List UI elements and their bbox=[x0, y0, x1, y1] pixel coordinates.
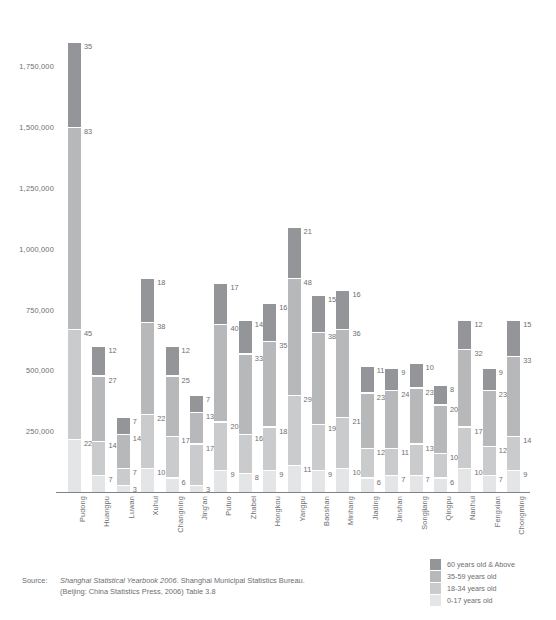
bar-segment-value: 27 bbox=[108, 377, 116, 385]
legend-item[interactable]: 35-59 years old bbox=[430, 570, 554, 582]
bar-segment[interactable]: 17 bbox=[214, 284, 227, 324]
bar-segment[interactable]: 40 bbox=[214, 325, 227, 421]
bar-segment-value: 19 bbox=[328, 425, 336, 433]
bar-segment[interactable]: 22 bbox=[68, 440, 81, 492]
legend-item[interactable]: 60 years old & Above bbox=[430, 558, 554, 570]
bar-segment[interactable]: 12 bbox=[361, 449, 374, 477]
bar-segment[interactable]: 24 bbox=[385, 391, 398, 448]
source-line-1: Shanghai Statistical Yearbook 2006. Shan… bbox=[60, 575, 442, 586]
bar-segment[interactable]: 83 bbox=[68, 128, 81, 329]
bar-segment[interactable]: 12 bbox=[483, 447, 496, 475]
bar-segment-value: 16 bbox=[255, 435, 263, 443]
bar-segment[interactable]: 9 bbox=[263, 471, 276, 492]
bar-segment[interactable]: 14 bbox=[507, 437, 520, 470]
bar-segment-value: 24 bbox=[401, 391, 409, 399]
bar-segment[interactable]: 12 bbox=[92, 347, 105, 375]
bar-segment[interactable]: 7 bbox=[483, 476, 496, 492]
bar-segment[interactable]: 20 bbox=[434, 406, 447, 453]
x-axis-label: Baoshan bbox=[322, 496, 331, 526]
bar-segment[interactable]: 8 bbox=[434, 386, 447, 404]
bar-segment[interactable]: 14 bbox=[239, 321, 252, 354]
bar-segment[interactable]: 8 bbox=[239, 474, 252, 492]
x-axis-label: Nanhui bbox=[468, 496, 477, 520]
bar-segment[interactable]: 14 bbox=[92, 442, 105, 475]
bar-segment[interactable]: 23 bbox=[361, 394, 374, 449]
bar-segment[interactable]: 22 bbox=[141, 415, 154, 467]
bar-segment[interactable]: 23 bbox=[410, 389, 423, 444]
bar-segment[interactable]: 7 bbox=[410, 476, 423, 492]
bar-segment[interactable]: 25 bbox=[166, 377, 179, 437]
bar-segment[interactable]: 18 bbox=[141, 279, 154, 322]
bar-segment[interactable]: 7 bbox=[190, 396, 203, 412]
bar-segment[interactable]: 6 bbox=[434, 479, 447, 492]
y-axis-tick: 250,000 bbox=[26, 427, 54, 436]
bar-segment[interactable]: 13 bbox=[410, 445, 423, 475]
bar-segment[interactable]: 35 bbox=[68, 43, 81, 127]
bar-segment[interactable]: 7 bbox=[117, 418, 130, 434]
bar-segment[interactable]: 7 bbox=[92, 476, 105, 492]
bar-segment[interactable]: 12 bbox=[458, 321, 471, 349]
bar-segment[interactable]: 20 bbox=[214, 423, 227, 470]
bar-segment-value: 20 bbox=[450, 406, 458, 414]
bar-segment-value: 45 bbox=[84, 330, 92, 338]
bar-segment[interactable]: 21 bbox=[288, 228, 301, 278]
bar-segment[interactable]: 27 bbox=[92, 377, 105, 441]
bar-segment[interactable]: 15 bbox=[312, 296, 325, 331]
bar-segment[interactable]: 7 bbox=[117, 469, 130, 485]
x-axis-label: Zhabei bbox=[249, 496, 258, 519]
bar-segment[interactable]: 9 bbox=[507, 471, 520, 492]
bar-segment[interactable]: 17 bbox=[458, 428, 471, 468]
bar-segment[interactable]: 11 bbox=[361, 367, 374, 393]
x-axis-label: Yangpu bbox=[298, 496, 307, 522]
bar-segment-value: 11 bbox=[304, 466, 312, 474]
legend-item[interactable]: 18-34 years old bbox=[430, 582, 554, 594]
legend-item[interactable]: 0-17 years old bbox=[430, 594, 554, 606]
bar-segment[interactable]: 16 bbox=[336, 291, 349, 329]
bar-segment[interactable]: 9 bbox=[483, 369, 496, 390]
bar-segment[interactable]: 18 bbox=[263, 428, 276, 471]
bar-segment[interactable]: 48 bbox=[288, 279, 301, 395]
x-axis-label: Jiading bbox=[371, 496, 380, 520]
bar-segment[interactable]: 10 bbox=[141, 469, 154, 492]
bar-segment-value: 14 bbox=[108, 442, 116, 450]
bar-segment[interactable]: 32 bbox=[458, 350, 471, 427]
y-axis-tick: 1,750,000 bbox=[19, 62, 54, 71]
bar-segment[interactable]: 17 bbox=[166, 437, 179, 477]
bar-segment[interactable]: 14 bbox=[117, 435, 130, 468]
bar-segment-value: 10 bbox=[426, 364, 434, 372]
bar-segment[interactable]: 10 bbox=[410, 364, 423, 387]
bar-segment[interactable]: 9 bbox=[385, 369, 398, 390]
bar-segment[interactable]: 29 bbox=[288, 396, 301, 465]
bar-segment[interactable]: 9 bbox=[312, 471, 325, 492]
y-axis-tick: 750,000 bbox=[26, 305, 54, 314]
bar-segment-value: 22 bbox=[84, 440, 92, 448]
bar-segment[interactable]: 10 bbox=[434, 454, 447, 477]
bar-segment[interactable]: 6 bbox=[166, 479, 179, 492]
bar-segment[interactable]: 15 bbox=[507, 321, 520, 356]
bar-segment[interactable]: 6 bbox=[361, 479, 374, 492]
bar-segment[interactable]: 16 bbox=[263, 304, 276, 342]
bar-segment[interactable]: 45 bbox=[68, 330, 81, 438]
bar-segment[interactable]: 21 bbox=[336, 418, 349, 468]
bar-segment[interactable]: 19 bbox=[312, 425, 325, 470]
bar-segment[interactable]: 23 bbox=[483, 391, 496, 446]
bar-segment[interactable]: 10 bbox=[458, 469, 471, 492]
bar-segment[interactable]: 7 bbox=[385, 476, 398, 492]
bar-segment[interactable]: 17 bbox=[190, 445, 203, 485]
bar-segment[interactable]: 33 bbox=[239, 355, 252, 434]
bar-segment[interactable]: 35 bbox=[263, 342, 276, 426]
bar-segment[interactable]: 16 bbox=[239, 435, 252, 473]
bar-segment[interactable]: 10 bbox=[336, 469, 349, 492]
bar-segment[interactable]: 36 bbox=[336, 330, 349, 416]
bar-segment[interactable]: 9 bbox=[214, 471, 227, 492]
bar-segment[interactable]: 33 bbox=[507, 357, 520, 436]
bar-segment[interactable]: 13 bbox=[190, 413, 203, 443]
bar-segment-value: 18 bbox=[279, 428, 287, 436]
bar-segment[interactable]: 38 bbox=[312, 333, 325, 424]
y-axis-tick: 1,000,000 bbox=[19, 244, 54, 253]
bar-segment[interactable]: 11 bbox=[385, 449, 398, 475]
bar-segment-value: 15 bbox=[523, 321, 531, 329]
bar-segment[interactable]: 12 bbox=[166, 347, 179, 375]
bar-segment[interactable]: 38 bbox=[141, 323, 154, 414]
bar-segment[interactable]: 11 bbox=[288, 466, 301, 492]
